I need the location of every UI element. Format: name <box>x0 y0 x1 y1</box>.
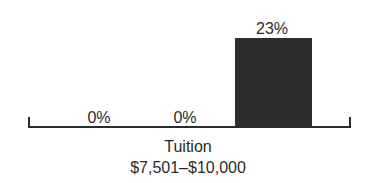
bar-2-value-label: 0% <box>155 109 215 127</box>
bar-chart: 0% 0% 23% Tuition $7,501–$10,000 <box>0 0 371 183</box>
bar-3-value-label: 23% <box>242 20 302 38</box>
x-axis-label-line2: $7,501–$10,000 <box>88 158 288 178</box>
x-axis-right-bracket <box>349 117 351 128</box>
x-axis-left-bracket <box>28 117 30 128</box>
x-axis-label-line1: Tuition <box>88 137 288 157</box>
bar-1-value-label: 0% <box>69 109 129 127</box>
bar-3 <box>235 38 312 127</box>
